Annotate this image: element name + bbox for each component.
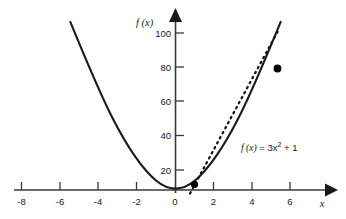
data-point-a [191,181,198,188]
x-tick-label-0: -8 [17,196,25,207]
y-tick-label-1: 40 [160,130,171,141]
y-tick-label-4: 100 [155,28,171,39]
x-axis-arrow-icon [325,184,338,197]
x-tick-label-6: 4 [249,196,254,207]
x-tick-label-3: -2 [132,196,140,207]
x-tick-label-7: 6 [287,196,292,207]
x-axis-title: x [319,198,325,209]
parabola-plot: -8 -6 -4 -2 0 2 4 6 20 40 60 80 100 f (x… [0,0,346,219]
x-tick-label-4: 0 [172,196,177,207]
x-tick-label-1: -6 [56,196,64,207]
equation-fx-part: f (x) [241,143,257,154]
secant-line [190,30,279,194]
x-axis-ticks [22,182,291,190]
chart-figure: -8 -6 -4 -2 0 2 4 6 20 40 60 80 100 f (x… [0,0,346,219]
y-axis-arrow-icon [169,8,182,22]
y-axis-title: f (x) [136,17,154,29]
y-axis-ticks [176,33,185,170]
equation-body-part: = 3x [257,142,278,153]
y-tick-label-2: 60 [160,96,171,107]
data-point-b [274,65,282,73]
equation-suffix-part: + 1 [281,142,297,153]
y-tick-label-3: 80 [160,62,171,73]
y-tick-label-0: 20 [160,165,171,176]
x-tick-label-5: 2 [211,196,216,207]
function-equation-label: f (x) = 3x2 + 1 [241,141,297,154]
x-tick-label-2: -4 [94,196,102,207]
